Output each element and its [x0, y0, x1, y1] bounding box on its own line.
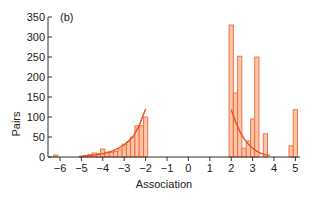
x-tick-label: 2	[228, 162, 234, 174]
x-tick-label: −6	[54, 162, 67, 174]
histogram-bar	[109, 153, 113, 157]
x-axis-title: Association	[136, 178, 192, 190]
y-tick-label: 0	[39, 151, 45, 163]
panel-label: (b)	[60, 11, 73, 23]
histogram-bar	[114, 151, 118, 157]
histogram-bar	[250, 119, 254, 157]
histogram-bar	[255, 57, 259, 157]
y-tick-label: 200	[27, 71, 45, 83]
x-tick-label: −3	[118, 162, 131, 174]
x-tick-label: 5	[292, 162, 298, 174]
y-tick-label: 50	[33, 131, 45, 143]
histogram-bar	[143, 117, 147, 157]
x-tick-label: −1	[161, 162, 174, 174]
histogram-bar	[126, 142, 130, 157]
x-tick-label: −2	[139, 162, 152, 174]
x-tick-label: 3	[250, 162, 256, 174]
y-tick-label: 350	[27, 11, 45, 23]
histogram-bar	[289, 146, 293, 157]
histogram-bar	[242, 148, 246, 157]
histogram-bar	[131, 137, 135, 157]
histogram-bar	[238, 56, 242, 157]
x-tick-label: 4	[271, 162, 277, 174]
y-tick-label: 300	[27, 31, 45, 43]
histogram-bar	[118, 149, 122, 157]
histogram-chart: (b) 050100150200250300350−6−5−4−3−2−1012…	[0, 0, 316, 200]
x-tick-label: −4	[97, 162, 110, 174]
y-tick-label: 150	[27, 91, 45, 103]
histogram-bars	[54, 25, 298, 157]
histogram-bar	[229, 25, 233, 157]
y-tick-label: 250	[27, 51, 45, 63]
x-tick-label: −5	[75, 162, 88, 174]
x-tick-label: 1	[207, 162, 213, 174]
histogram-bar	[293, 110, 297, 157]
y-axis-title: Pairs	[10, 111, 22, 137]
histogram-bar	[139, 126, 143, 157]
x-tick-label: 0	[185, 162, 191, 174]
y-tick-label: 100	[27, 111, 45, 123]
